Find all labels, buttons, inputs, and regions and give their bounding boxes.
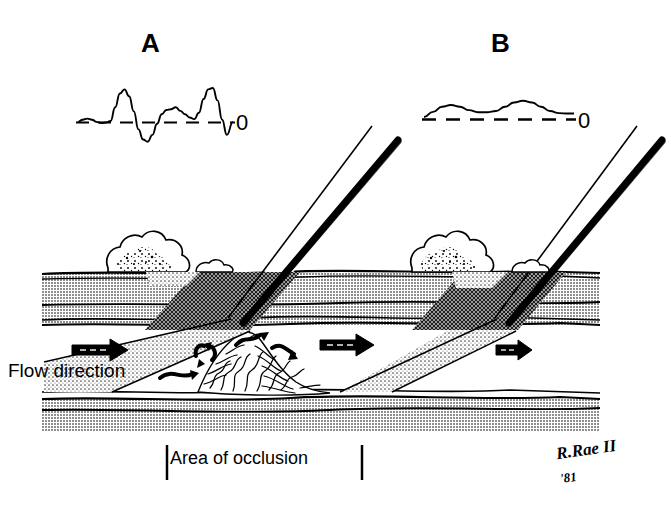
flow-arrow-mid (320, 334, 374, 356)
flow-direction-label: Flow direction (8, 360, 125, 382)
artist-signature-year: '81 (559, 469, 578, 487)
panel-label-a: A (141, 28, 160, 59)
zero-baseline-label-b: 0 (578, 108, 590, 134)
zero-baseline-label-a: 0 (236, 110, 248, 136)
area-of-occlusion-label: Area of occlusion (170, 448, 308, 469)
panel-label-b: B (491, 28, 510, 59)
waveform-b (422, 101, 576, 120)
vessel-illustration (0, 0, 671, 510)
flow-arrow-right (496, 340, 532, 360)
waveform-a (76, 88, 235, 142)
doppler-occlusion-figure: A B 0 0 Flow direction Area of occlusion… (0, 0, 671, 510)
lower-vessel-wall (42, 389, 600, 432)
